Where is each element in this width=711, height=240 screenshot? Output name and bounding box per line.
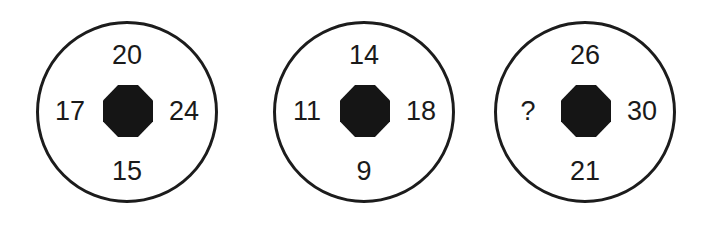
wheel-top-number: 20 (97, 42, 157, 69)
wheel-right-number: 30 (612, 98, 672, 125)
wheel-bottom-number: 21 (555, 158, 615, 185)
wheel-right-number: 24 (154, 98, 214, 125)
wheel-bottom-number: 15 (97, 158, 157, 185)
wheel-bottom-number: 9 (334, 158, 394, 185)
wheel-top-number: 14 (334, 42, 394, 69)
octagon-hub-icon (103, 85, 153, 137)
number-wheel-3: 26 ? 30 21 (494, 21, 676, 203)
octagon-hub-icon (340, 85, 390, 137)
wheel-right-number: 18 (391, 98, 451, 125)
wheel-missing-number: ? (498, 98, 558, 125)
octagon-hub-icon (561, 85, 611, 137)
number-wheel-1: 20 17 24 15 (36, 21, 218, 203)
wheel-left-number: 11 (277, 98, 337, 125)
wheel-left-number: 17 (40, 98, 100, 125)
wheel-top-number: 26 (555, 42, 615, 69)
number-wheel-2: 14 11 18 9 (273, 21, 455, 203)
